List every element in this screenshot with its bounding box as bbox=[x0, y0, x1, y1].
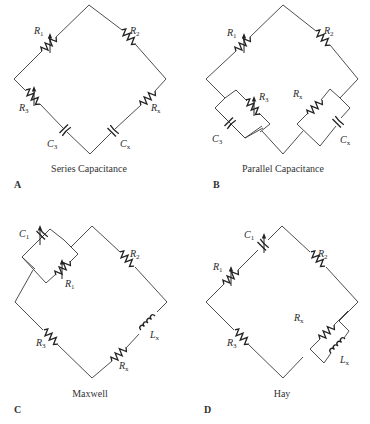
label-r3: R3 bbox=[35, 337, 46, 350]
label-rx: Rx bbox=[150, 102, 161, 115]
label-c3: C3 bbox=[47, 138, 58, 151]
panel-letter: B bbox=[213, 179, 220, 190]
panel-letter: D bbox=[204, 404, 211, 415]
label-r1: R1 bbox=[212, 261, 223, 274]
inductor-lx bbox=[329, 337, 345, 353]
label-rx: Rx bbox=[292, 88, 303, 101]
label-r2: R2 bbox=[129, 25, 140, 38]
panel-letter: A bbox=[14, 179, 22, 190]
label-cx: Cx bbox=[120, 138, 131, 151]
resistor-r1-variable bbox=[53, 258, 72, 277]
variable-arrow-icon bbox=[38, 225, 42, 245]
caption: Parallel Capacitance bbox=[242, 163, 324, 174]
label-r2: R2 bbox=[129, 248, 140, 261]
label-r3: R3 bbox=[258, 91, 269, 104]
bridge-circuits-figure: R1 R2 R3 Rx C3 Cx Series Capacitance A bbox=[0, 0, 370, 424]
label-rx: Rx bbox=[118, 360, 129, 373]
label-r1: R1 bbox=[64, 278, 75, 291]
label-rx: Rx bbox=[293, 312, 304, 325]
bridge-wires bbox=[206, 226, 358, 378]
caption: Series Capacitance bbox=[51, 163, 127, 174]
label-r3: R3 bbox=[18, 102, 29, 115]
capacitor-cx bbox=[332, 116, 343, 127]
panel-d-hay: C1 R1 R2 R3 Rx Lx Hay D bbox=[204, 226, 358, 415]
caption: Hay bbox=[274, 388, 291, 399]
panel-a-series-capacitance: R1 R2 R3 Rx C3 Cx Series Capacitance A bbox=[14, 5, 166, 190]
resistor-rx bbox=[305, 97, 324, 116]
caption: Maxwell bbox=[72, 388, 108, 399]
label-r1: R1 bbox=[226, 27, 237, 40]
resistor-rx bbox=[317, 322, 336, 341]
panel-letter: C bbox=[14, 404, 21, 415]
label-c1: C1 bbox=[19, 228, 30, 241]
label-lx: Lx bbox=[339, 354, 350, 367]
label-lx: Lx bbox=[149, 329, 160, 342]
panel-c-maxwell: C1 R1 R2 R3 Rx Lx Maxwell C bbox=[14, 225, 167, 415]
label-c1: C1 bbox=[244, 229, 255, 242]
inductor-lx bbox=[139, 314, 155, 330]
label-r2: R2 bbox=[323, 25, 334, 38]
label-cx: Cx bbox=[340, 134, 351, 147]
label-c3: C3 bbox=[212, 133, 223, 146]
bridge-wires bbox=[15, 226, 167, 378]
label-r3: R3 bbox=[226, 337, 237, 350]
capacitor-c1-variable bbox=[257, 239, 268, 250]
panel-b-parallel-capacitance: R1 R2 R3 C3 Rx Cx Parallel Capacitance B bbox=[206, 5, 358, 190]
label-r1: R1 bbox=[33, 25, 44, 38]
